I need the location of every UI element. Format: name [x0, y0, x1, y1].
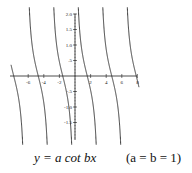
svg-text:6: 6 — [121, 80, 124, 85]
cotangent-plot: -6-4-22468 2.01.51.0.5-.5-1.0-1.5 — [0, 0, 192, 150]
svg-text:-.5: -.5 — [67, 89, 73, 94]
svg-text:-6: -6 — [26, 80, 31, 85]
svg-text:-4: -4 — [42, 80, 47, 85]
figure-caption: y = a cot bx (a = b = 1) — [34, 150, 96, 166]
svg-text:-1.5: -1.5 — [64, 120, 72, 125]
caption-params: (a = b = 1) — [126, 150, 181, 166]
svg-text:2.0: 2.0 — [66, 12, 73, 17]
svg-text:2: 2 — [89, 80, 92, 85]
svg-text:4: 4 — [105, 80, 108, 85]
caption-equation: y = a cot bx — [34, 150, 96, 165]
cot-branch — [11, 65, 23, 145]
svg-text:.5: .5 — [68, 58, 72, 63]
svg-text:-2: -2 — [57, 80, 62, 85]
svg-text:1.5: 1.5 — [66, 27, 73, 32]
svg-text:1.0: 1.0 — [66, 43, 73, 48]
